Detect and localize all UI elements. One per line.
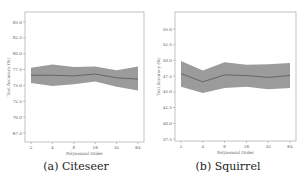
squirrel-chart: 55.052.550.047.545.042.540.037.524816326…	[152, 0, 304, 160]
panel-citeseer: 85.082.580.077.575.072.570.067.524816326…	[0, 0, 152, 185]
y-tick-label: 45.0	[163, 89, 173, 94]
x-tick-label: 4	[51, 145, 54, 150]
x-tick-label: 32	[114, 145, 120, 150]
panel-squirrel: 55.052.550.047.545.042.540.037.524816326…	[152, 0, 304, 185]
y-tick-label: 55.0	[163, 27, 173, 32]
caption-squirrel: (b) Squirrel	[152, 160, 304, 173]
y-tick-label: 82.5	[13, 35, 23, 40]
x-tick-label: 8	[223, 144, 226, 149]
y-tick-label: 80.0	[13, 51, 23, 56]
y-tick-label: 72.5	[13, 99, 23, 104]
y-tick-label: 37.5	[163, 137, 173, 142]
y-tick-label: 50.0	[163, 58, 173, 63]
x-axis-label: Polynomial Order	[66, 151, 103, 156]
caption-citeseer: (a) Citeseer	[0, 160, 152, 173]
x-axis-label: Polynomial Order	[217, 150, 254, 155]
y-tick-label: 70.0	[13, 115, 23, 120]
x-tick-label: 64	[287, 144, 293, 149]
x-tick-label: 16	[244, 144, 250, 149]
x-tick-label: 16	[93, 145, 99, 150]
y-tick-label: 47.5	[163, 74, 173, 79]
x-tick-label: 64	[135, 145, 141, 150]
y-tick-label: 42.5	[163, 105, 173, 110]
x-tick-label: 32	[266, 144, 272, 149]
citeseer-chart: 85.082.580.077.575.072.570.067.524816326…	[0, 0, 152, 160]
x-tick-label: 8	[72, 145, 75, 150]
y-tick-label: 75.0	[13, 83, 23, 88]
y-tick-label: 67.5	[13, 131, 23, 136]
y-axis-label: Test Accuracy (%)	[6, 57, 11, 96]
x-tick-label: 4	[201, 144, 204, 149]
y-axis-label: Test Accuracy (%)	[156, 57, 161, 96]
x-tick-label: 2	[180, 144, 183, 149]
y-tick-label: 85.0	[13, 20, 23, 25]
x-tick-label: 2	[30, 145, 33, 150]
y-tick-label: 77.5	[13, 67, 23, 72]
y-tick-label: 52.5	[163, 42, 173, 47]
y-tick-label: 40.0	[163, 121, 173, 126]
